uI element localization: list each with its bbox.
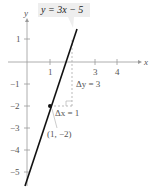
delta-y-label: Δy = 3 xyxy=(76,79,101,89)
y-tick-label: −2 xyxy=(10,101,20,111)
y-tick-label: −4 xyxy=(10,145,20,155)
x-axis-label: x xyxy=(143,57,148,67)
x-tick-label: 3 xyxy=(93,67,98,77)
equation-label: y = 3x − 5 xyxy=(40,4,83,15)
x-axis xyxy=(8,60,142,64)
delta-x-label: Δx = 1 xyxy=(55,108,79,118)
y-tick-label: −3 xyxy=(10,123,20,133)
y-axis xyxy=(25,18,29,186)
x-tick-label: 1 xyxy=(48,67,53,77)
equation-callout-pointer xyxy=(68,17,74,28)
y-axis-label: y xyxy=(23,8,28,18)
y-tick-label: −1 xyxy=(10,79,20,89)
point-label: (1, −2) xyxy=(47,129,72,139)
right-angle-icon xyxy=(66,101,72,106)
line-graph: 1 3 4 1 −1 −2 −3 −4 −5 x y y = 3x − 5 Δy… xyxy=(0,0,152,190)
y-tick-label: −5 xyxy=(10,167,20,177)
point-1-neg2 xyxy=(48,104,52,108)
y-tick-label: 1 xyxy=(16,34,21,44)
x-tick-label: 4 xyxy=(115,67,120,77)
